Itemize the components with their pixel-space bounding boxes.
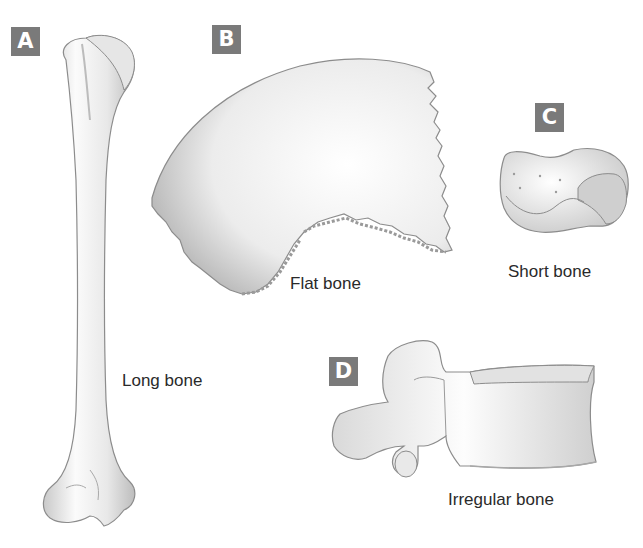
caption-short-bone: Short bone [508, 262, 591, 282]
long-bone-illustration [43, 35, 134, 526]
flat-bone-illustration [152, 59, 452, 294]
caption-irregular-bone: Irregular bone [448, 490, 554, 510]
panel-label-d: D [329, 357, 358, 386]
panel-label-b: B [212, 25, 241, 54]
caption-flat-bone: Flat bone [290, 274, 361, 294]
bone-types-figure: A B C D Long bone Flat bone Short bone I… [0, 0, 643, 548]
short-bone-illustration [500, 149, 628, 233]
caption-long-bone: Long bone [122, 371, 202, 391]
panel-label-c: C [535, 103, 564, 132]
irregular-bone-illustration [332, 341, 596, 477]
panel-label-a: A [11, 27, 40, 56]
